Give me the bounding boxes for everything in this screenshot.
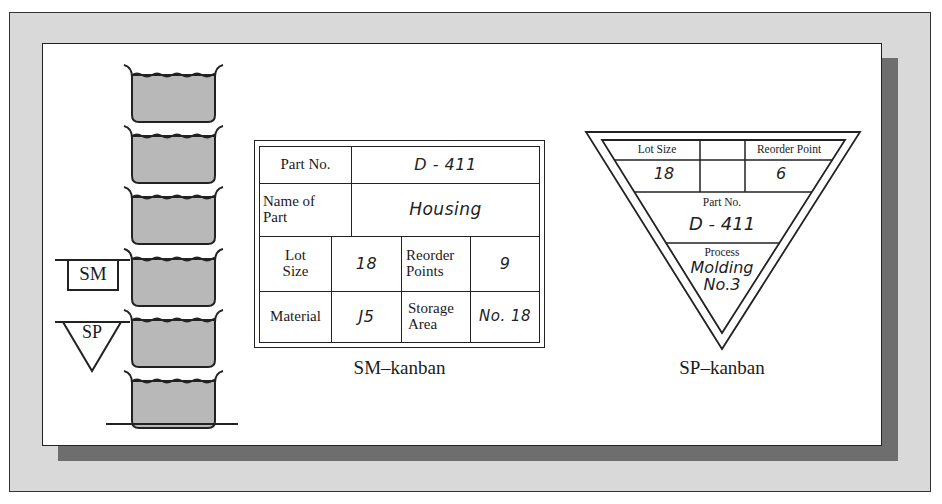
sp-lot-size-value: 18 <box>628 164 700 183</box>
container-6 <box>124 371 223 428</box>
sp-marker-label: SP <box>66 322 118 343</box>
sp-process-label: Process <box>672 246 772 258</box>
sm-lot-size-label: LotSize <box>260 236 331 291</box>
sm-storage-label: StorageArea <box>401 291 470 342</box>
sp-lot-size-label: Lot Size <box>614 143 700 155</box>
sp-part-no-value: D - 411 <box>662 213 782 234</box>
sm-part-no-value: D - 411 <box>351 147 539 183</box>
container-3 <box>124 187 223 244</box>
container-2 <box>124 126 223 183</box>
sm-kanban-card: Part No. D - 411 Name ofPart Housing Lot… <box>254 140 545 348</box>
sm-part-no-label: Part No. <box>260 147 351 183</box>
sp-reorder-value: 6 <box>745 164 817 183</box>
sm-material-value: J5 <box>331 291 401 342</box>
sp-process-value: Molding No.3 <box>672 260 772 294</box>
sm-storage-value: No. 18 <box>470 291 539 342</box>
sp-kanban-caption: SP–kanban <box>622 357 822 379</box>
sm-name-label: Name ofPart <box>260 183 351 236</box>
sp-part-no-label: Part No. <box>662 196 782 208</box>
container-4 <box>124 249 223 306</box>
sm-reorder-value: 9 <box>470 236 539 291</box>
sm-lot-size-value: 18 <box>331 236 401 291</box>
sm-marker-label: SM <box>68 263 118 285</box>
sm-kanban-caption: SM–kanban <box>254 357 545 379</box>
sm-material-label: Material <box>260 291 331 342</box>
container-1 <box>124 65 223 122</box>
sp-reorder-label: Reorder Point <box>745 143 833 155</box>
container-5 <box>124 310 223 367</box>
sm-name-value: Housing <box>351 183 539 236</box>
sm-reorder-label: ReorderPoints <box>401 236 470 291</box>
sm-kanban-table: Part No. D - 411 Name ofPart Housing Lot… <box>259 146 540 343</box>
